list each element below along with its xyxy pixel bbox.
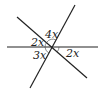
angle-arc-left [45, 42, 47, 47]
angle-label-top: 4x [44, 28, 59, 41]
angle-arc-right [57, 47, 59, 52]
angle-diagram: 4x 2x 3x 2x [0, 0, 103, 99]
angle-label-lower-left: 3x [33, 49, 47, 62]
angle-label-right: 2x [65, 47, 80, 60]
angle-label-left: 2x [30, 36, 45, 49]
